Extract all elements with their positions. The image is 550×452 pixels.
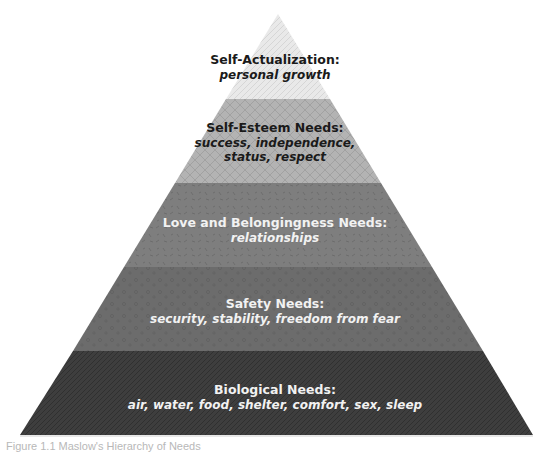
- tier-label-love-belonging: Love and Belongingness Needs: relationsh…: [0, 216, 550, 245]
- tier-description: personal growth: [0, 68, 550, 82]
- tier-title: Self-Esteem Needs:: [0, 121, 550, 136]
- figure-caption: Figure 1.1 Maslow's Hierarchy of Needs: [6, 440, 201, 452]
- tier-description: relationships: [0, 231, 550, 245]
- tier-title: Safety Needs:: [0, 297, 550, 312]
- tier-label-biological: Biological Needs: air, water, food, shel…: [0, 383, 550, 412]
- tier-description: security, stability, freedom from fear: [0, 312, 550, 326]
- tier-title: Biological Needs:: [0, 383, 550, 398]
- tier-label-self-esteem: Self-Esteem Needs: success, independence…: [0, 121, 550, 164]
- tier-description: success, independence,: [0, 136, 550, 150]
- tier-title: Love and Belongingness Needs:: [0, 216, 550, 231]
- tier-label-self-actualization: Self-Actualization: personal growth: [0, 53, 550, 82]
- tier-title: Self-Actualization:: [0, 53, 550, 68]
- tier-label-safety: Safety Needs: security, stability, freed…: [0, 297, 550, 326]
- tier-description: status, respect: [0, 150, 550, 164]
- tier-description: air, water, food, shelter, comfort, sex,…: [0, 398, 550, 412]
